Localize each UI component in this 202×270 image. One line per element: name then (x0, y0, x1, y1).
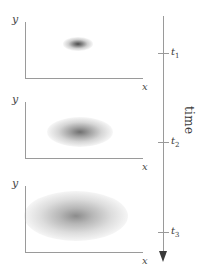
time-tick-mark-3 (158, 232, 169, 233)
gaussian-blob-panel-3 (24, 191, 128, 241)
time-tick-mark-2 (158, 142, 169, 143)
time-tick-label-3: t3 (171, 226, 180, 240)
gaussian-blob-panel-2 (47, 117, 113, 147)
time-axis-line (163, 16, 164, 254)
diffusion-time-series-figure: y x y x y x t1 t2 t3 time (0, 0, 202, 270)
y-axis-label-panel-3: y (12, 178, 18, 189)
time-tick-subscript-3: 3 (175, 231, 179, 239)
time-arrow-icon (159, 251, 167, 262)
gaussian-blob-panel-1 (63, 37, 93, 51)
plot-panel-2: y x (0, 94, 156, 176)
time-axis-label: time (182, 106, 196, 134)
time-tick-mark-1 (158, 53, 169, 54)
x-axis-line-panel-3 (25, 252, 143, 253)
plot-panel-3: y x (0, 178, 156, 266)
x-axis-label-panel-2: x (142, 162, 148, 172)
time-tick-subscript-1: 1 (175, 52, 179, 60)
x-axis-line-panel-1 (25, 78, 143, 79)
y-axis-line-panel-2 (25, 102, 26, 158)
time-tick-subscript-2: 2 (175, 141, 179, 149)
x-axis-line-panel-2 (25, 158, 143, 159)
y-axis-label-panel-1: y (12, 14, 18, 25)
x-axis-label-panel-3: x (142, 256, 148, 266)
y-axis-line-panel-1 (25, 22, 26, 79)
time-tick-label-1: t1 (171, 47, 180, 61)
plot-panel-1: y x (0, 14, 156, 96)
time-axis: t1 t2 t3 time (158, 14, 202, 266)
y-axis-label-panel-2: y (12, 94, 18, 105)
time-tick-label-2: t2 (171, 136, 180, 150)
x-axis-label-panel-1: x (142, 82, 148, 92)
